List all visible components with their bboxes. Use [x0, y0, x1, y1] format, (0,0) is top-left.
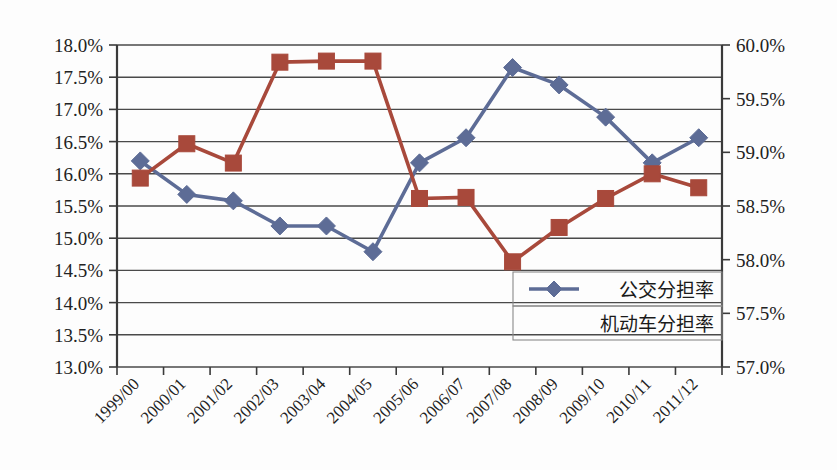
left-axis-tick-label: 17.0%	[54, 99, 103, 120]
right-axis-tick-label: 58.0%	[736, 250, 785, 271]
right-axis-tick-label: 57.0%	[736, 357, 785, 378]
left-axis-tick-label: 16.0%	[54, 164, 103, 185]
data-point-marker	[644, 166, 660, 182]
data-point-marker	[225, 155, 241, 171]
left-axis-tick-label: 15.0%	[54, 228, 103, 249]
data-point-marker	[691, 180, 707, 196]
right-axis-tick-label: 59.0%	[736, 142, 785, 163]
data-point-marker	[412, 190, 428, 206]
left-axis-tick-labels: 18.0%17.5%17.0%16.5%16.0%15.5%15.0%14.5%…	[54, 35, 103, 378]
left-axis-tick-label: 13.0%	[54, 357, 103, 378]
right-axis-tick-label: 57.5%	[736, 303, 785, 324]
data-point-marker	[551, 219, 567, 235]
data-point-marker	[179, 136, 195, 152]
left-axis-tick-label: 13.5%	[54, 325, 103, 346]
right-axis-tick-label: 60.0%	[736, 35, 785, 56]
data-point-marker	[458, 189, 474, 205]
data-point-marker	[132, 170, 148, 186]
left-axis-tick-label: 16.5%	[54, 132, 103, 153]
right-axis-tick-label: 58.5%	[736, 196, 785, 217]
data-point-marker	[365, 53, 381, 69]
line-chart: 18.0%17.5%17.0%16.5%16.0%15.5%15.0%14.5%…	[0, 0, 837, 470]
left-axis-tick-label: 14.5%	[54, 260, 103, 281]
left-axis-tick-label: 18.0%	[54, 35, 103, 56]
data-point-marker	[272, 54, 288, 70]
left-axis-tick-label: 17.5%	[54, 67, 103, 88]
legend-label: 机动车分担率	[600, 313, 714, 335]
data-point-marker	[505, 254, 521, 270]
left-axis-tick-label: 15.5%	[54, 196, 103, 217]
chart-page: 18.0%17.5%17.0%16.5%16.0%15.5%15.0%14.5%…	[0, 0, 837, 470]
data-point-marker	[318, 53, 334, 69]
right-axis-tick-label: 59.5%	[736, 89, 785, 110]
legend-label: 公交分担率	[619, 279, 714, 301]
left-axis-tick-label: 14.0%	[54, 293, 103, 314]
data-point-marker	[598, 190, 614, 206]
